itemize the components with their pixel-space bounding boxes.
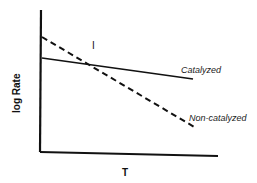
chart: I Catalyzed Non-catalyzed T log Rate (0, 0, 257, 183)
y-axis-title: log Rate (11, 73, 22, 113)
intersection-marker: I (92, 40, 95, 51)
catalyzed-label: Catalyzed (181, 65, 222, 75)
x-axis (40, 152, 218, 156)
x-axis-title: T (122, 167, 128, 178)
catalyzed-line (42, 58, 193, 79)
y-axis (40, 10, 41, 152)
non-catalyzed-line (42, 37, 196, 128)
non-catalyzed-label: Non-catalyzed (189, 113, 248, 123)
